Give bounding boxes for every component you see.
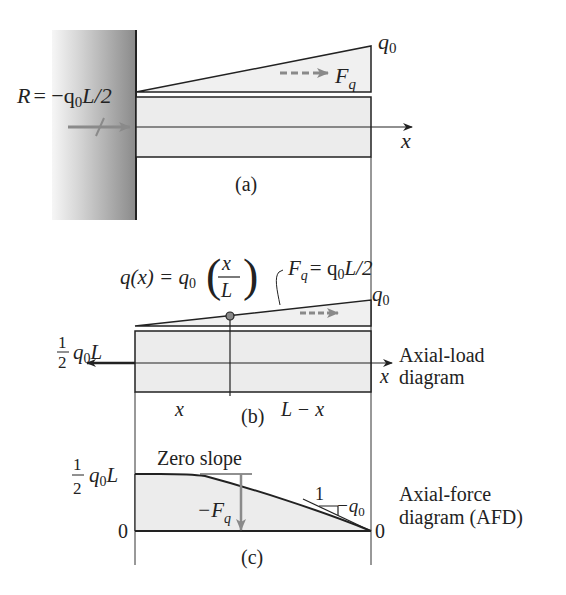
axial-load-figure: R= −q0L/2 q0 Fq x (a) q(x) = q0 ( ) x L (0, 0, 566, 595)
formula-numerator: x (221, 252, 231, 274)
top-value-label: q0L (89, 463, 118, 489)
zero-right-label: 0 (375, 520, 385, 542)
slope-run-label: 1 (315, 484, 324, 504)
segment-left-label: x (174, 398, 184, 420)
zero-left-label: 0 (118, 520, 128, 542)
formula-paren-right: ) (243, 250, 258, 301)
afd-label-1: Axial-force (399, 483, 491, 505)
bar-b (135, 331, 371, 392)
formula-denominator: L (220, 279, 232, 301)
axial-load-diagram-label-1: Axial-load (399, 344, 485, 366)
zero-slope-label: Zero slope (157, 447, 242, 470)
caption-c: (c) (241, 546, 263, 569)
formula-paren-left: ( (206, 250, 221, 301)
end-force-den: 2 (58, 353, 67, 372)
caption-b: (b) (241, 405, 264, 428)
load-max-label-b: q0 (372, 282, 390, 308)
slope-value-label: −q0 (336, 495, 365, 519)
end-force-label: q0L (73, 340, 102, 366)
load-max-label: q0 (378, 29, 397, 56)
x-axis-label: x (400, 128, 411, 153)
panel-a: R= −q0L/2 q0 Fq x (a) (16, 29, 412, 220)
panel-c: Zero slope 1 2 q0L 0 0 −Fq 1 −q0 Axial-f… (72, 447, 523, 569)
end-force-num: 1 (58, 333, 67, 352)
reaction-label: R= −q0L/2 (16, 83, 112, 110)
top-value-num: 1 (73, 455, 82, 474)
distributed-load-formula: q(x) = q0 (120, 265, 196, 291)
resultant-leader-line (276, 270, 283, 305)
fixed-wall (52, 30, 136, 220)
caption-a: (a) (235, 173, 257, 196)
top-value-den: 2 (73, 479, 82, 498)
segment-right-label: L − x (280, 398, 324, 420)
distributed-load-triangle-b (135, 300, 371, 326)
x-axis-label-b: x (379, 365, 389, 387)
afd-label-2: diagram (AFD) (399, 506, 523, 529)
resultant-formula: Fq= q0L/2 (287, 256, 373, 283)
load-point-marker (226, 312, 234, 320)
axial-load-diagram-label-2: diagram (399, 366, 465, 389)
